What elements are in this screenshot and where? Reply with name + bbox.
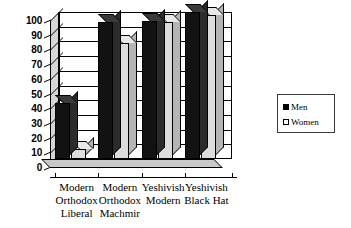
y-axis-tick-label: 50 [12,91,42,99]
y-axis-tick-label: 80 [12,46,42,54]
bar-side-face [173,10,181,155]
category-label-line: Machmir [93,207,146,220]
x-axis-tick-mark [55,173,56,178]
bar-men [98,22,113,159]
legend-swatch-women-icon [283,119,289,125]
bar-front-face [142,21,157,159]
bar-front-face [98,22,113,159]
y-axis-tick-labels: 1009080706050403020100 [12,12,42,168]
plot-floor [41,159,223,168]
bar-men [185,12,200,159]
category-label-line: Black Hat [180,194,233,207]
x-axis-tick-mark [232,173,233,178]
bar-men [142,21,157,159]
category-label-line: Yeshivish [180,181,233,194]
legend-item-men: Men [283,99,334,114]
y-axis-tick-label: 30 [12,120,42,128]
bar-side-face [157,9,165,155]
bar-front-face [185,12,200,159]
bar-side-face [216,3,224,155]
x-axis-line [50,177,237,178]
y-axis-tick-label: 70 [12,61,42,69]
x-axis-tick-mark [98,173,99,178]
bar-side-face [129,31,137,155]
x-axis-tick-mark [142,173,143,178]
y-axis-tick-label: 10 [12,149,42,157]
legend-item-women: Women [283,114,334,129]
x-axis-tick-mark [185,173,186,178]
y-axis-tick-label: 60 [12,76,42,84]
y-axis-tick-label: 90 [12,32,42,40]
bar-side-face [113,10,121,155]
x-axis-category-labels: ModernOrthodoxLiberalModernOrthodoxMachm… [44,181,244,227]
bar-side-face [200,0,208,155]
y-axis-tick-label: 100 [12,17,42,25]
y-axis-tick-label: 40 [12,105,42,113]
y-axis-tick-label: 0 [12,164,42,172]
bar-front-face [55,103,70,159]
chart-legend: Men Women [277,94,335,133]
bar-men [55,103,70,159]
x-axis-category-label: YeshivishBlack Hat [180,181,233,207]
legend-label-men: Men [291,102,308,112]
plot-area [50,12,232,168]
legend-label-women: Women [291,117,319,127]
y-axis-tick-label: 20 [12,135,42,143]
chart-figure: 1009080706050403020100 ModernOrthodoxLib… [0,0,351,228]
legend-swatch-men-icon [283,104,289,110]
